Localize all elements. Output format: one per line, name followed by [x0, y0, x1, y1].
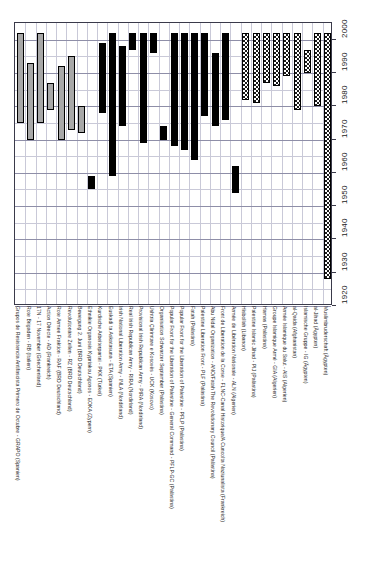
- axis-tick: [332, 205, 336, 206]
- category-label: Action Directe - AD (Frankreich): [46, 306, 52, 380]
- timeline-bar[interactable]: [273, 33, 280, 86]
- grid-line-horizontal-minor: [15, 289, 331, 290]
- grid-line-vertical: [128, 23, 129, 304]
- grid-line-horizontal-minor: [15, 156, 331, 157]
- timeline-bar[interactable]: [191, 33, 198, 160]
- category-label: Abu Nidal Organization - ANO/Fatah The R…: [210, 306, 216, 479]
- axis-tick: [332, 238, 336, 239]
- timeline-bar[interactable]: [109, 33, 116, 176]
- category-label: Hamas (Palästina): [262, 306, 268, 349]
- category-label: Popular Front for the Liberation of Pale…: [179, 306, 185, 451]
- grid-line-vertical: [148, 23, 149, 304]
- grid-line-vertical: [56, 23, 57, 304]
- grid-line-horizontal-minor: [15, 256, 331, 257]
- grid-line-horizontal: [15, 273, 331, 274]
- grid-line-vertical: [159, 23, 160, 304]
- category-label: Rote Brigaden - RB (Italien): [26, 306, 32, 370]
- time-axis: 200019901980197019601950194019301920: [332, 22, 370, 305]
- category-label: Revolutionäre Zellen - RZ (BRD Deutschla…: [67, 306, 73, 411]
- grid-line-vertical: [77, 23, 78, 304]
- grid-line-horizontal: [15, 239, 331, 240]
- timeline-bar[interactable]: [17, 33, 24, 123]
- timeline-bar[interactable]: [88, 176, 95, 189]
- axis-tick: [332, 105, 336, 106]
- category-label: al-Jihad (Ägypten): [313, 306, 319, 348]
- timeline-bar[interactable]: [68, 56, 75, 129]
- category-label: Grupos de Resistencia Antifascista Prime…: [15, 306, 21, 481]
- category-label: Rote Armee Fraktion - RAF (BRD Deutschla…: [56, 306, 62, 415]
- grid-line-vertical: [87, 23, 88, 304]
- grid-line-horizontal: [15, 206, 331, 207]
- axis-tick: [332, 139, 336, 140]
- timeline-bar[interactable]: [212, 53, 219, 126]
- axis-tick: [332, 305, 336, 306]
- category-label: Islamische Gruppe - IG (Ägypten): [303, 306, 309, 383]
- category-label: Muslimbruderschaft (Ägypten): [323, 306, 329, 375]
- timeline-bar[interactable]: [160, 126, 167, 139]
- timeline-bar[interactable]: [78, 106, 85, 133]
- grid-line-vertical: [46, 23, 47, 304]
- category-label: Organisation Schwarzer September (Paläst…: [159, 306, 165, 415]
- timeline-bar[interactable]: [150, 33, 157, 53]
- timeline-bar[interactable]: [47, 83, 54, 110]
- axis-tick: [332, 272, 336, 273]
- timeline-bar[interactable]: [99, 43, 106, 113]
- category-label: Armée de Libération Nationale - ALN (Alg…: [231, 306, 237, 415]
- category-label: Armée Islamique du Salut - AIS (Algerien…: [282, 306, 288, 402]
- category-label: Ethnikie Organosis Kypriakou Agonos - EO…: [87, 306, 93, 433]
- timeline-bar[interactable]: [242, 33, 249, 100]
- timeline-bar[interactable]: [119, 46, 126, 126]
- category-label: Bewegung 2. Juni (BRD Deutschland): [77, 306, 83, 394]
- grid-line-horizontal-minor: [15, 189, 331, 190]
- category-label: Euskadi ta Askatasuna - ETA (Spanien): [108, 306, 114, 397]
- axis-tick: [332, 39, 336, 40]
- category-axis-labels: Grupos de Resistencia Antifascista Prime…: [14, 306, 332, 577]
- grid-line-horizontal: [15, 173, 331, 174]
- timeline-bar[interactable]: [263, 33, 270, 83]
- category-label: Fatah (Palästina): [190, 306, 196, 346]
- category-label: Real Irish Republican Army - RIRA (Nordi…: [128, 306, 134, 414]
- timeline-bar[interactable]: [222, 33, 229, 120]
- category-label: al-Qaida (Afghanistan): [292, 306, 298, 358]
- timeline-bar[interactable]: [27, 63, 34, 140]
- category-label: Palestine Islamic Jihad - PIJ (Palästina…: [251, 306, 257, 398]
- plot-area: [14, 22, 332, 305]
- timeline-bar[interactable]: [201, 33, 208, 116]
- timeline-bar[interactable]: [37, 33, 44, 123]
- timeline-bar[interactable]: [129, 33, 136, 50]
- category-label: Provisional Irish Republican Army - PIRA…: [138, 306, 144, 429]
- timeline-bar[interactable]: [171, 33, 178, 146]
- category-label: Popular Front for the Liberation of Pale…: [169, 306, 175, 509]
- timeline-bar[interactable]: [181, 33, 188, 150]
- timeline-chart-figure: 200019901980197019601950194019301920 Gru…: [0, 0, 370, 577]
- timeline-bar[interactable]: [58, 66, 65, 139]
- timeline-bar[interactable]: [232, 166, 239, 193]
- axis-tick: [332, 72, 336, 73]
- category-label: Ushtria Çlirimtare e Kosovës - UCK (Koso…: [149, 306, 155, 410]
- category-label: Kurdische Arbeiterpartei - PKK (Türkei): [97, 306, 103, 396]
- timeline-bar[interactable]: [140, 33, 147, 143]
- grid-line-horizontal-minor: [15, 223, 331, 224]
- timeline-bar[interactable]: [314, 33, 321, 106]
- category-label: Front de Liberation de la Corse - FLNC-C…: [220, 306, 226, 522]
- axis-tick: [332, 172, 336, 173]
- category-label: Hisbollah (Libanon): [241, 306, 247, 351]
- category-label: Groupe Islamique Armé - GIA (Algerien): [272, 306, 278, 398]
- timeline-bar[interactable]: [304, 50, 311, 73]
- timeline-bar[interactable]: [324, 33, 331, 279]
- timeline-bar[interactable]: [253, 33, 260, 103]
- grid-line-vertical: [230, 23, 231, 304]
- timeline-bar[interactable]: [294, 33, 301, 110]
- category-label: 17N - 17 November (Griechenland): [36, 306, 42, 387]
- timeline-bar[interactable]: [283, 33, 290, 76]
- category-label: Irish National Liberation Army - INLA (N…: [118, 306, 124, 419]
- category-label: Palestine Liberation Front - PLF (Paläst…: [200, 306, 206, 406]
